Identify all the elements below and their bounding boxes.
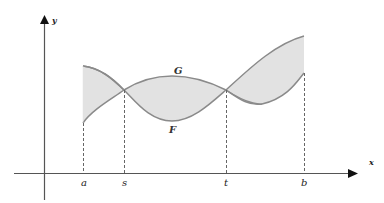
- shaded-region: [83, 36, 304, 123]
- tick-b-label: b: [301, 177, 307, 188]
- area-between-curves-diagram: y x G F a s t b: [0, 0, 384, 203]
- y-axis-label: y: [51, 15, 58, 25]
- curve-g-label: G: [174, 65, 183, 76]
- tick-a-label: a: [81, 177, 87, 188]
- x-axis-arrow-icon: [348, 169, 358, 178]
- y-axis-arrow-icon: [40, 15, 49, 24]
- tick-t-label: t: [224, 177, 229, 188]
- curve-f-label: F: [168, 124, 177, 135]
- x-axis-label: x: [368, 157, 374, 167]
- tick-s-label: s: [122, 177, 127, 188]
